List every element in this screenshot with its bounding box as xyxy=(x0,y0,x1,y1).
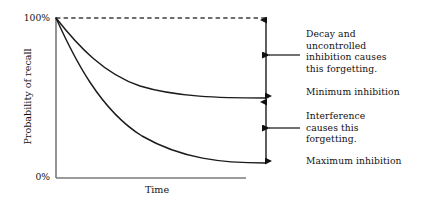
annotation-maximum-inhibition: Maximum inhibition xyxy=(306,155,422,167)
curve-minimum-inhibition xyxy=(56,18,266,98)
y-tick-label-100: 100% xyxy=(6,12,50,23)
forgetting-curve-figure: 100% 0% Probability of recall Time Decay… xyxy=(0,0,424,206)
y-tick-label-0: 0% xyxy=(6,171,50,182)
annotation-minimum-inhibition: Minimum inhibition xyxy=(306,86,422,98)
x-axis-title: Time xyxy=(117,184,197,195)
annotation-interference: Interference causes this forgetting. xyxy=(306,110,422,145)
y-axis-title: Probability of recall xyxy=(22,27,33,167)
annotation-decay-uncontrolled-inhibition: Decay and uncontrolled inhibition causes… xyxy=(306,28,422,74)
